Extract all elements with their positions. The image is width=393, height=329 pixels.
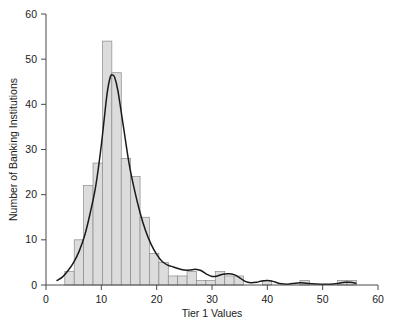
x-tick-label: 40 [261, 293, 273, 305]
y-tick-label: 10 [25, 233, 37, 245]
histogram-bar [168, 276, 177, 285]
histogram-bar [93, 163, 102, 285]
histogram-bar [197, 280, 206, 285]
histogram-bar [178, 276, 187, 285]
y-tick-label: 0 [31, 279, 37, 291]
histogram-bar [74, 240, 83, 285]
y-tick-label: 50 [25, 53, 37, 65]
x-tick-label: 60 [372, 293, 384, 305]
histogram-bar [159, 262, 168, 285]
x-tick-label: 10 [95, 293, 107, 305]
histogram-bar [206, 280, 215, 285]
tier1-values-histogram: 0102030405060 0102030405060 Tier 1 Value… [0, 0, 393, 329]
y-tick-label: 40 [25, 98, 37, 110]
x-tick-label: 30 [206, 293, 218, 305]
histogram-bar [149, 253, 158, 285]
histogram-figure: 0102030405060 0102030405060 Tier 1 Value… [0, 0, 393, 329]
y-tick-label: 30 [25, 143, 37, 155]
x-tick-label: 0 [43, 293, 49, 305]
histogram-bar [121, 159, 130, 285]
x-tick-label: 50 [317, 293, 329, 305]
x-tick-label: 20 [151, 293, 163, 305]
x-axis-title: Tier 1 Values [182, 307, 243, 319]
histogram-bar [187, 271, 196, 285]
y-tick-label: 60 [25, 8, 37, 20]
histogram-bar [225, 276, 234, 285]
y-tick-label: 20 [25, 188, 37, 200]
y-axis-title: Number of Banking Institutions [7, 78, 19, 221]
